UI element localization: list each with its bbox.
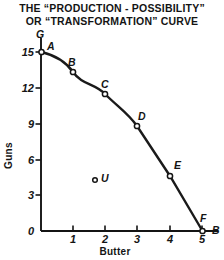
annotation-point-c: C <box>101 78 109 90</box>
point-marker-d <box>134 123 139 128</box>
y-tick-label-3: 3 <box>12 189 34 201</box>
x-tick-label-2: 2 <box>95 233 115 245</box>
point-marker-e <box>167 173 172 178</box>
x-tick-label-1: 1 <box>63 233 83 245</box>
y-tick-label-6: 6 <box>12 154 34 166</box>
annotation-point-f: F <box>200 212 206 224</box>
point-marker-u <box>93 178 98 183</box>
production-possibility-figure: THE “PRODUCTION - POSSIBILITY” OR “TRANS… <box>0 0 224 260</box>
point-marker-b <box>70 69 75 74</box>
annotation-point-e: E <box>174 159 181 171</box>
annotation-g-axis-end: G <box>36 28 44 40</box>
y-axis-label: Guns <box>3 134 14 178</box>
x-tick-label-4: 4 <box>160 233 180 245</box>
y-axis-tick-labels: 15 12 9 6 3 0 <box>10 0 34 260</box>
y-tick-label-15: 15 <box>12 46 34 58</box>
annotation-point-d: D <box>138 110 146 122</box>
x-tick-label-5: 5 <box>192 233 212 245</box>
x-tick-label-3: 3 <box>127 233 147 245</box>
y-tick-label-0: 0 <box>12 225 34 237</box>
y-tick-label-12: 12 <box>12 82 34 94</box>
curve-point-markers <box>39 49 205 233</box>
annotation-point-a: A <box>47 40 55 52</box>
annotation-point-b: B <box>68 56 76 68</box>
point-marker-c <box>102 91 107 96</box>
transformation-curve <box>42 52 203 231</box>
annotation-b-axis-end: B <box>212 224 220 236</box>
point-marker-a <box>39 49 44 54</box>
annotation-point-u: U <box>101 172 109 184</box>
y-tick-label-9: 9 <box>12 118 34 130</box>
x-axis-label: Butter <box>80 246 150 257</box>
